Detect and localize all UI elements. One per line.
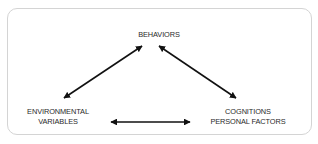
arrow-behaviors-cognitions bbox=[159, 46, 236, 98]
node-environmental-line-1: ENVIRONMENTAL bbox=[14, 107, 102, 117]
node-cognitions-line-2: PERSONAL FACTORS bbox=[196, 117, 300, 127]
node-behaviors: BEHAVIORS bbox=[125, 30, 193, 40]
arrow-behaviors-environmental bbox=[64, 46, 142, 98]
node-environmental-line-2: VARIABLES bbox=[14, 117, 102, 127]
node-cognitions-personal-factors: COGNITIONS PERSONAL FACTORS bbox=[196, 107, 300, 126]
node-behaviors-line-1: BEHAVIORS bbox=[125, 30, 193, 40]
node-environmental-variables: ENVIRONMENTAL VARIABLES bbox=[14, 107, 102, 126]
node-cognitions-line-1: COGNITIONS bbox=[196, 107, 300, 117]
